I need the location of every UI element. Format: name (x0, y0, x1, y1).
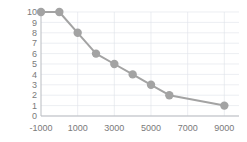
x-axis-tick-label: 7000 (178, 123, 198, 133)
x-axis-tick-label: -1000 (29, 123, 52, 133)
x-axis-tick-label: 5000 (141, 123, 161, 133)
data-point-marker (37, 8, 45, 16)
data-point-marker (220, 101, 228, 109)
data-point-marker (147, 81, 155, 89)
data-point-marker (128, 70, 136, 78)
chart-container: 012345678910 -100010003000500070009000 (0, 0, 247, 142)
y-axis-tick-label: 10 (27, 7, 37, 17)
y-axis-tick-label: 0 (32, 111, 37, 121)
plot-background (0, 0, 247, 142)
x-axis-tick-label: 9000 (214, 123, 234, 133)
y-axis-tick-label: 4 (32, 70, 37, 80)
data-point-marker (73, 29, 81, 37)
data-point-marker (92, 49, 100, 57)
x-axis-tick-label: 3000 (104, 123, 124, 133)
y-axis-tick-label: 2 (32, 90, 37, 100)
y-axis-tick-label: 7 (32, 38, 37, 48)
x-axis-tick-label: 1000 (68, 123, 88, 133)
data-point-marker (165, 91, 173, 99)
y-axis-tick-label: 9 (32, 18, 37, 28)
data-point-marker (110, 60, 118, 68)
line-chart: 012345678910 -100010003000500070009000 (0, 0, 247, 142)
y-axis-tick-label: 5 (32, 59, 37, 69)
y-axis-tick-label: 8 (32, 28, 37, 38)
data-point-marker (55, 8, 63, 16)
y-axis-tick-label: 6 (32, 49, 37, 59)
y-axis-tick-label: 1 (32, 101, 37, 111)
y-axis-tick-label: 3 (32, 80, 37, 90)
